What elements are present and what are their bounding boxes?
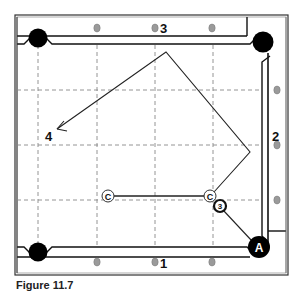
figure-caption: Figure 11.7 <box>16 279 73 291</box>
rail-label-3: 3 <box>160 21 167 36</box>
object-ball-3: 3 <box>214 200 226 212</box>
end-label-4: 4 <box>45 129 53 144</box>
svg-text:A: A <box>255 241 264 255</box>
pocket-top-left <box>29 29 48 48</box>
diamond-icon <box>274 86 280 94</box>
diamond-icon <box>94 24 100 32</box>
diamond-icon <box>274 196 280 204</box>
pocket-top-right <box>253 32 274 53</box>
cue-ball-start: C <box>102 190 114 202</box>
target-pocket-a: A <box>248 236 270 258</box>
diamond-icon <box>152 24 158 32</box>
svg-text:C: C <box>207 192 214 202</box>
svg-text:3: 3 <box>218 202 223 211</box>
rail-label-2: 2 <box>272 129 279 144</box>
pocket-bottom-left <box>29 243 48 262</box>
diamond-icon <box>209 258 215 266</box>
diamond-icon <box>209 24 215 32</box>
rail-label-1: 1 <box>160 256 167 271</box>
cue-ball-contact: C <box>204 190 216 202</box>
svg-text:C: C <box>105 192 112 202</box>
diamond-icon <box>94 258 100 266</box>
diamond-icon <box>152 258 158 266</box>
